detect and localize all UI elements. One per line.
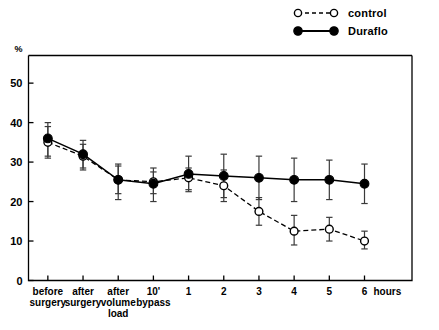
chart-figure: control Duraflo %01020304050beforesurger… xyxy=(0,0,439,330)
data-point-duraflo xyxy=(79,150,88,159)
legend-sample-control xyxy=(290,4,342,22)
y-tick-label: 0 xyxy=(16,275,22,287)
data-point-control xyxy=(361,237,369,245)
data-point-duraflo xyxy=(325,175,334,184)
x-tick-label: surgery xyxy=(65,297,102,308)
legend-label-control: control xyxy=(342,7,387,19)
x-tick-label: surgery xyxy=(30,297,67,308)
x-tick-label: after xyxy=(72,286,94,297)
x-tick-label: 4 xyxy=(291,286,297,297)
x-tick-label: load xyxy=(108,308,129,319)
x-tick-label: 3 xyxy=(256,286,262,297)
y-axis-unit-label: % xyxy=(14,44,22,54)
y-tick-label: 30 xyxy=(10,156,22,168)
data-point-duraflo xyxy=(149,179,158,188)
x-tick-label: 2 xyxy=(221,286,227,297)
data-point-duraflo xyxy=(43,134,52,143)
x-tick-label: 1 xyxy=(186,286,192,297)
data-point-duraflo xyxy=(219,171,228,180)
data-point-duraflo xyxy=(360,179,369,188)
series-line-duraflo xyxy=(48,138,365,183)
y-tick-label: 10 xyxy=(10,235,22,247)
data-point-duraflo xyxy=(184,170,193,179)
data-point-control xyxy=(220,182,228,190)
legend-item-control: control xyxy=(290,4,430,22)
series-line-control xyxy=(48,142,365,241)
legend-item-duraflo: Duraflo xyxy=(290,22,430,40)
x-tick-label: after xyxy=(107,286,129,297)
data-point-duraflo xyxy=(114,175,123,184)
x-tick-label: volume xyxy=(101,297,136,308)
data-point-control xyxy=(325,225,333,233)
data-point-duraflo xyxy=(290,175,299,184)
x-axis-unit-label: hours xyxy=(374,286,402,297)
x-tick-label: 5 xyxy=(327,286,333,297)
legend-sample-duraflo xyxy=(290,22,342,40)
data-point-duraflo xyxy=(255,173,264,182)
data-point-control xyxy=(255,208,263,216)
x-tick-label: before xyxy=(33,286,64,297)
data-point-control xyxy=(290,227,298,235)
chart-plot-area: %01020304050beforesurgeryaftersurgeryaft… xyxy=(0,0,439,330)
y-tick-label: 50 xyxy=(10,77,22,89)
y-tick-label: 20 xyxy=(10,196,22,208)
y-tick-label: 40 xyxy=(10,117,22,129)
x-tick-label: 6 xyxy=(362,286,368,297)
chart-legend: control Duraflo xyxy=(290,4,430,40)
x-tick-label: 10' xyxy=(147,286,161,297)
legend-label-duraflo: Duraflo xyxy=(342,25,388,37)
x-tick-label: bypass xyxy=(136,297,171,308)
